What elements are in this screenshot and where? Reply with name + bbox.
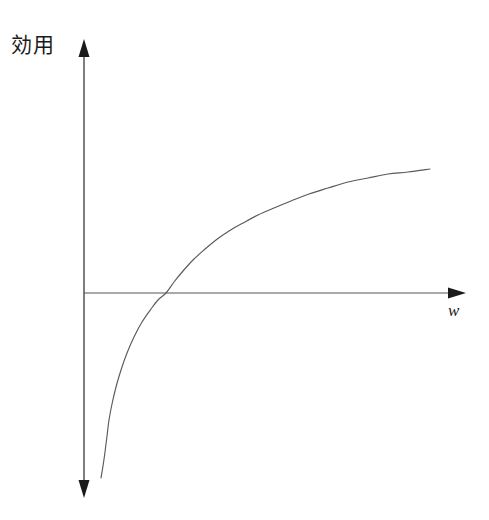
- y-axis-up-arrow-icon: [79, 39, 90, 57]
- x-axis-label: w: [448, 302, 459, 319]
- utility-curve-figure: 効用 w: [0, 0, 489, 520]
- plot-area: [0, 0, 489, 520]
- y-axis-down-arrow-icon: [79, 480, 90, 498]
- utility-curve-path: [101, 169, 430, 478]
- x-axis: [84, 288, 466, 299]
- y-axis: [79, 39, 90, 498]
- y-axis-label: 効用: [11, 35, 54, 56]
- x-axis-right-arrow-icon: [448, 288, 466, 299]
